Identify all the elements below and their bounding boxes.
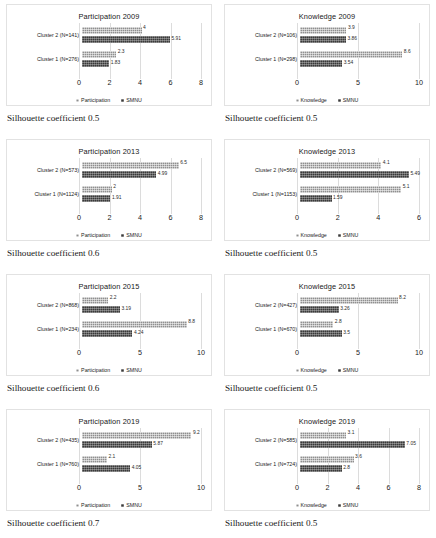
bar-value-label: 2.3: [118, 50, 125, 55]
x-axis: 02468: [7, 214, 201, 227]
chart-row: Cluster 2 (N=435)9.25.87: [7, 430, 201, 452]
chart-title: Participation 2015: [7, 282, 211, 291]
category-label: Cluster 2 (N=573): [7, 168, 82, 173]
legend-item[interactable]: Knowledge: [296, 367, 327, 373]
legend-swatch-icon: [296, 99, 299, 102]
bar-value-label: 2.8: [335, 320, 342, 325]
legend-item[interactable]: SMNU: [338, 367, 359, 373]
x-axis-ticks: 0510: [297, 349, 419, 362]
gridline: [419, 23, 420, 79]
bar-value-label: 3.19: [121, 307, 131, 312]
bar-participation: [82, 51, 116, 58]
x-tick-label: 0: [77, 214, 81, 221]
bar-knowledge: [300, 186, 401, 193]
gridline: [201, 158, 202, 214]
silhouette-coefficient-caption: Silhouette coefficient 0.5: [224, 248, 430, 258]
x-tick-label: 2: [336, 214, 340, 221]
gridline: [419, 428, 420, 484]
legend-item[interactable]: SMNU: [121, 232, 142, 238]
bar-value-label: 9.2: [193, 431, 200, 436]
silhouette-coefficient-caption: Silhouette coefficient 0.6: [6, 383, 212, 393]
bar-value-label: 8.2: [399, 296, 406, 301]
category-label: Cluster 1 (N=276): [7, 57, 82, 62]
legend-swatch-icon: [121, 369, 124, 372]
bar-value-label: 3.5: [343, 331, 350, 336]
x-tick-label: 10: [415, 79, 423, 86]
bar-smnu: [82, 306, 120, 313]
x-axis: 0246: [225, 214, 419, 227]
chart-panel: Participation 2009Cluster 2 (N=141)45.91…: [6, 4, 212, 106]
category-label: Cluster 1 (N=1153): [225, 192, 300, 197]
legend-item[interactable]: Participation: [76, 367, 110, 373]
legend-label: SMNU: [343, 97, 359, 103]
legend-item[interactable]: Participation: [76, 97, 110, 103]
x-tick-label: 0: [295, 214, 299, 221]
legend-label: SMNU: [126, 232, 142, 238]
legend-item[interactable]: Participation: [76, 232, 110, 238]
x-tick-label: 0: [295, 349, 299, 356]
category-label: Cluster 1 (N=760): [7, 462, 82, 467]
silhouette-coefficient-caption: Silhouette coefficient 0.5: [6, 113, 212, 123]
bar-smnu: [82, 60, 109, 67]
bar-group: 4.15.49: [300, 161, 419, 181]
x-axis-ticks: 0246: [297, 214, 419, 227]
legend: KnowledgeSMNU: [225, 232, 429, 238]
legend-item[interactable]: SMNU: [121, 502, 142, 508]
bar-value-label: 5.49: [410, 172, 420, 177]
chart-panel: Knowledge 2013Cluster 2 (N=569)4.15.49Cl…: [224, 139, 430, 241]
x-axis-ticks: 0510: [297, 79, 419, 92]
bar-group: 45.91: [82, 26, 201, 46]
legend-swatch-icon: [76, 234, 79, 237]
legend-swatch-icon: [338, 369, 341, 372]
chart-cell: Knowledge 2015Cluster 2 (N=427)8.23.26Cl…: [218, 270, 436, 405]
legend-item[interactable]: SMNU: [338, 232, 359, 238]
legend-item[interactable]: Knowledge: [296, 502, 327, 508]
bar-value-label: 4.1: [383, 161, 390, 166]
chart-row: Cluster 1 (N=234)8.84.24: [7, 319, 201, 341]
legend-item[interactable]: SMNU: [121, 97, 142, 103]
legend-item[interactable]: SMNU: [338, 502, 359, 508]
bar-value-label: 2.2: [110, 296, 117, 301]
bar-value-label: 1.83: [111, 61, 121, 66]
bar-group: 6.54.99: [82, 161, 201, 181]
legend-swatch-icon: [296, 234, 299, 237]
bar-group: 2.83.5: [300, 320, 419, 340]
bar-value-label: 4.24: [134, 331, 144, 336]
bar-value-label: 3.86: [347, 37, 357, 42]
legend-swatch-icon: [338, 99, 341, 102]
chart-row: Cluster 1 (N=724)3.62.8: [225, 454, 419, 476]
x-axis: 0510: [225, 79, 419, 92]
chart-row: Cluster 2 (N=585)3.17.05: [225, 430, 419, 452]
plot-area: Cluster 2 (N=106)3.93.86Cluster 1 (N=298…: [225, 23, 419, 79]
legend-label: SMNU: [343, 502, 359, 508]
category-label: Cluster 2 (N=106): [225, 33, 300, 38]
category-label: Cluster 2 (N=868): [7, 303, 82, 308]
chart-cell: Participation 2015Cluster 2 (N=868)2.23.…: [0, 270, 218, 405]
legend-item[interactable]: Knowledge: [296, 232, 327, 238]
chart-row: Cluster 1 (N=276)2.31.83: [7, 49, 201, 71]
bar-value-label: 8.8: [188, 320, 195, 325]
chart-panel: Participation 2015Cluster 2 (N=868)2.23.…: [6, 274, 212, 376]
plot-area: Cluster 2 (N=435)9.25.87Cluster 1 (N=760…: [7, 428, 201, 484]
bar-knowledge: [300, 321, 333, 328]
plot-area: Cluster 2 (N=868)2.23.19Cluster 1 (N=234…: [7, 293, 201, 349]
legend: ParticipationSMNU: [7, 367, 211, 373]
silhouette-coefficient-caption: Silhouette coefficient 0.7: [6, 518, 212, 528]
bar-value-label: 4.05: [132, 466, 142, 471]
legend-item[interactable]: Knowledge: [296, 97, 327, 103]
chart-title: Knowledge 2019: [225, 417, 429, 426]
silhouette-coefficient-caption: Silhouette coefficient 0.5: [224, 383, 430, 393]
category-label: Cluster 2 (N=569): [225, 168, 300, 173]
legend-item[interactable]: SMNU: [121, 367, 142, 373]
x-tick-label: 0: [77, 79, 81, 86]
bar-smnu: [300, 306, 339, 313]
bar-smnu: [82, 171, 156, 178]
legend-swatch-icon: [76, 99, 79, 102]
chart-title: Participation 2019: [7, 417, 211, 426]
category-label: Cluster 2 (N=427): [225, 303, 300, 308]
bar-group: 2.14.05: [82, 455, 201, 475]
category-label: Cluster 1 (N=670): [225, 327, 300, 332]
x-tick-label: 6: [169, 79, 173, 86]
legend-item[interactable]: Participation: [76, 502, 110, 508]
legend-item[interactable]: SMNU: [338, 97, 359, 103]
